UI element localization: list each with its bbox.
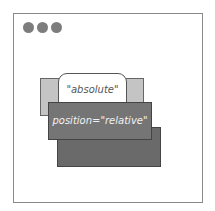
window-dot-icon bbox=[37, 22, 48, 33]
window-dot-icon bbox=[23, 22, 34, 33]
relative-box: position="relative" bbox=[48, 102, 152, 140]
window-dot-icon bbox=[51, 22, 62, 33]
